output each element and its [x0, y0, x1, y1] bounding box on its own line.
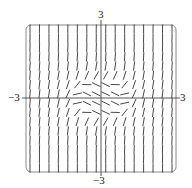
- slope-segment: [39, 108, 40, 116]
- slope-segment: [114, 72, 117, 80]
- slope-segment: [58, 81, 60, 89]
- slope-segment: [172, 99, 173, 107]
- slope-segment: [162, 99, 163, 107]
- slope-field-plot: [0, 0, 192, 188]
- slope-segment: [93, 92, 101, 96]
- slope-segment: [87, 53, 88, 61]
- slope-segment: [132, 99, 136, 107]
- slope-segment: [58, 127, 59, 135]
- slope-segment: [68, 136, 69, 144]
- slope-segment: [105, 127, 106, 135]
- slope-segment: [124, 136, 125, 144]
- slope-segment: [58, 118, 59, 126]
- slope-segment: [172, 127, 173, 135]
- slope-segment: [104, 118, 108, 125]
- slope-segment: [162, 90, 163, 98]
- slope-segment: [143, 90, 145, 98]
- slope-segment: [172, 108, 173, 116]
- slope-segment: [102, 92, 110, 96]
- slope-segment: [77, 62, 78, 70]
- slope-segment: [75, 109, 80, 116]
- slope-segment: [96, 62, 97, 70]
- slope-segment: [77, 53, 78, 61]
- slope-segment: [96, 53, 97, 61]
- slope-segment: [111, 92, 119, 96]
- slope-segment: [106, 53, 107, 61]
- slope-segment: [152, 90, 153, 98]
- slope-segment: [162, 118, 163, 126]
- slope-segment: [73, 93, 81, 95]
- slope-segment: [39, 80, 40, 88]
- slope-segment: [132, 90, 136, 98]
- slope-segment: [94, 72, 98, 79]
- y-min-label: −3: [93, 174, 105, 186]
- slope-segment: [143, 81, 145, 89]
- slope-segment: [48, 71, 49, 79]
- slope-segment: [162, 108, 163, 116]
- slope-segment: [39, 62, 40, 70]
- slope-segment: [102, 111, 110, 115]
- slope-segment: [124, 127, 125, 135]
- slope-segment: [58, 108, 60, 116]
- slope-segment: [30, 118, 31, 126]
- slope-segment: [85, 72, 88, 80]
- slope-segment: [133, 108, 136, 116]
- slope-segment: [67, 127, 68, 135]
- slope-segment: [115, 127, 116, 135]
- slope-segment: [172, 62, 173, 70]
- slope-segment: [153, 108, 154, 116]
- slope-segment: [94, 118, 98, 125]
- slope-segment: [121, 93, 129, 95]
- slope-segment: [115, 136, 116, 144]
- slope-segment: [143, 62, 144, 70]
- slope-segment: [105, 62, 106, 70]
- slope-segment: [39, 99, 40, 107]
- slope-segment: [143, 108, 145, 116]
- slope-segment: [87, 136, 88, 144]
- slope-segment: [106, 136, 107, 144]
- slope-segment: [48, 108, 49, 116]
- slope-segment: [153, 62, 154, 70]
- slope-segment: [124, 53, 125, 61]
- slope-segment: [39, 71, 40, 79]
- slope-segment: [172, 80, 173, 88]
- slope-segment: [134, 53, 135, 61]
- slope-segment: [75, 81, 80, 88]
- slope-segment: [30, 80, 31, 88]
- slope-segment: [48, 118, 49, 126]
- slope-segment: [162, 62, 163, 70]
- slope-segment: [153, 127, 154, 135]
- slope-segment: [67, 81, 70, 89]
- slope-segment: [143, 127, 144, 135]
- slope-segment: [30, 90, 31, 98]
- slope-segment: [93, 111, 101, 115]
- slope-segment: [30, 71, 31, 79]
- slope-segment: [172, 90, 173, 98]
- slope-segment: [39, 127, 40, 135]
- slope-segment: [49, 62, 50, 70]
- slope-segment: [172, 118, 173, 126]
- slope-segment: [76, 71, 79, 79]
- slope-segment: [111, 101, 119, 105]
- y-max-label: 3: [98, 8, 104, 20]
- slope-segment: [133, 81, 136, 89]
- slope-segment: [30, 62, 31, 70]
- slope-segment: [123, 71, 126, 79]
- slope-segment: [66, 99, 70, 107]
- slope-segment: [67, 118, 69, 126]
- slope-segment: [48, 80, 49, 88]
- slope-segment: [104, 72, 108, 79]
- slope-segment: [123, 118, 126, 126]
- slope-segment: [58, 90, 60, 98]
- slope-segment: [49, 127, 50, 135]
- slope-segment: [124, 62, 125, 70]
- slope-segment: [134, 136, 135, 144]
- slope-segment: [122, 109, 127, 116]
- slope-segment: [153, 71, 154, 79]
- slope-segment: [48, 99, 49, 107]
- slope-segment: [48, 90, 49, 98]
- slope-segment: [77, 127, 78, 135]
- slope-segment: [58, 62, 59, 70]
- slope-segment: [143, 71, 144, 79]
- slope-segment: [58, 99, 60, 107]
